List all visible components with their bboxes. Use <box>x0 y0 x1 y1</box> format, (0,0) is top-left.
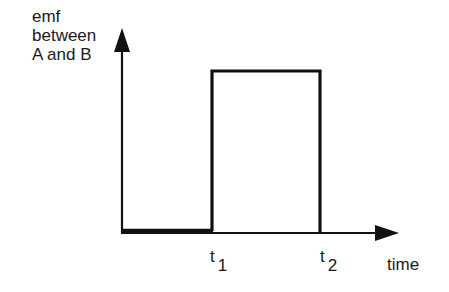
y-axis-label: emf between A and B <box>32 7 96 64</box>
y-axis-arrowhead-icon <box>114 28 130 52</box>
tick-t1-sub: 1 <box>218 256 227 275</box>
x-axis-label: time <box>387 255 419 274</box>
tick-t1: t1 <box>210 247 224 267</box>
y-axis-label-line-1: emf <box>32 7 96 26</box>
x-axis-arrowhead-icon <box>375 225 399 241</box>
tick-t1-main: t <box>210 247 215 266</box>
emf-pulse <box>212 71 320 233</box>
y-axis-label-line-3: A and B <box>32 45 96 64</box>
tick-t2: t2 <box>320 247 334 267</box>
tick-t2-sub: 2 <box>328 256 337 275</box>
y-axis-label-line-2: between <box>32 26 96 45</box>
tick-t2-main: t <box>320 247 325 266</box>
